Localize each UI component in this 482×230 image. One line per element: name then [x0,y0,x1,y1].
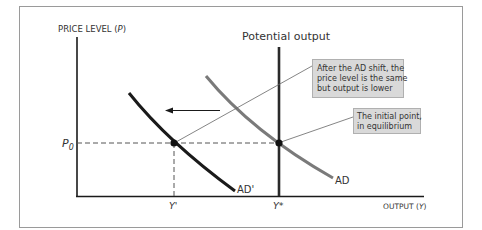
annotation-initial: The initial point, in equilibrium [354,109,422,134]
ad-prime-label: AD' [237,184,254,195]
chart: PRICE LEVEL (P) Potential output After t… [0,0,482,230]
annotation-shift: After the AD shift, the price level is t… [313,60,408,98]
svg-text:After the AD shift, the: After the AD shift, the [317,64,404,73]
shifted-point [170,139,177,146]
callout-line-initial [281,117,353,142]
svg-text:but output is lower: but output is lower [317,84,393,93]
p0-label: P0 [62,137,74,152]
svg-text:price level is the same: price level is the same [317,74,407,83]
svg-text:The initial point,: The initial point, [356,112,422,121]
ad-label: AD [335,175,350,186]
arrow-head-icon [165,108,173,114]
y-axis-label: PRICE LEVEL (P) [58,24,126,34]
callout-line-shift [176,66,312,142]
initial-equilibrium-point [275,139,282,146]
svg-text:in equilibrium: in equilibrium [357,122,412,131]
y-star-label: Y* [273,200,284,211]
ad-prime-curve [129,93,235,191]
potential-output-label: Potential output [242,30,331,43]
x-axis-label: OUTPUT (Y) [383,202,426,211]
y-prime-label: Y' [169,200,177,211]
